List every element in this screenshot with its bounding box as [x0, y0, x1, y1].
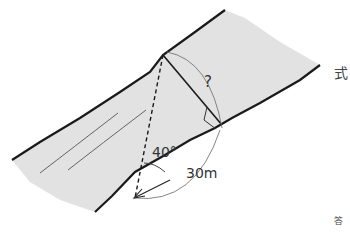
formula-label: 式	[334, 62, 348, 82]
angle-label: 40°	[152, 144, 177, 160]
unknown-width-label: ?	[204, 73, 212, 91]
distance-arrow	[136, 180, 170, 197]
answer-label: 答	[334, 214, 343, 227]
river-diagram: ? 40° 30m	[0, 0, 350, 232]
distance-label: 30m	[186, 165, 217, 181]
